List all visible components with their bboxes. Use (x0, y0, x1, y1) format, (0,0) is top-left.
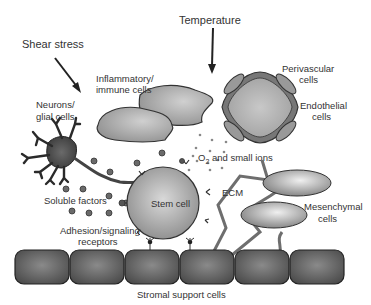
neurons-label-line1: Neurons/ (36, 99, 75, 110)
soluble-factors-label: Soluble factors (44, 195, 107, 206)
adhesion-label-line1: Adhesion/signaling (60, 225, 140, 236)
stromal-support-cells (15, 250, 344, 284)
endothelial-label-line2: cells (312, 111, 331, 122)
temperature-arrow (208, 28, 216, 74)
ecm-label: ECM (222, 187, 243, 198)
shear-stress-label: Shear stress (22, 38, 84, 50)
endothelial-label-line1: Endothelial (300, 100, 347, 111)
stem-cell-niche-diagram: Shear stress Temperature Inflammatory/ i… (0, 0, 371, 305)
perivascular-label-line2: cells (299, 74, 318, 85)
mesenchymal-label-line2: cells (318, 213, 337, 224)
stem-cell-label: Stem cell (151, 198, 190, 209)
shear-stress-arrow (55, 58, 81, 93)
adhesion-label-line2: receptors (78, 236, 118, 247)
stromal-label: Stromal support cells (137, 289, 226, 300)
temperature-label: Temperature (179, 14, 241, 26)
perivascular-label-line1: Perivascular (282, 63, 334, 74)
mesenchymal-label-line1: Mesenchymal (304, 201, 363, 212)
inflammatory-label-line1: Inflammatory/ (96, 73, 154, 84)
neurons-label-line2: glial cells (36, 111, 75, 122)
blood-vessel (221, 71, 298, 143)
inflammatory-label-line2: immune cells (96, 84, 152, 95)
